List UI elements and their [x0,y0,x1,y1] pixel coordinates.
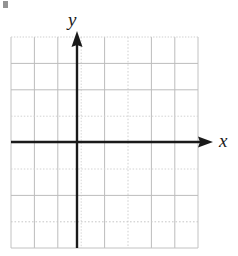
coordinate-grid-svg [0,0,238,256]
coordinate-plane-figure: y x [0,0,238,256]
y-axis-label: y [68,10,76,29]
scan-artifact [3,1,8,8]
y-axis-arrowhead [72,31,83,47]
x-axis [11,137,213,148]
x-axis-arrowhead [198,137,213,148]
x-axis-label: x [219,131,227,150]
